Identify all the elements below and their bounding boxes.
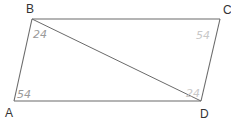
diagonal-bd <box>32 19 201 101</box>
angle-annotation-c: 54 <box>196 29 210 42</box>
angle-annotation-b: 24 <box>33 28 47 41</box>
parallelogram-diagram: B C A D 24 54 54 24 <box>0 0 231 123</box>
vertex-label-c: C <box>223 3 231 17</box>
vertex-label-d: D <box>200 107 209 121</box>
angle-annotation-a: 54 <box>17 88 31 101</box>
angle-annotation-d: 24 <box>186 87 200 100</box>
vertex-label-a: A <box>5 106 13 120</box>
vertex-label-b: B <box>26 2 34 16</box>
